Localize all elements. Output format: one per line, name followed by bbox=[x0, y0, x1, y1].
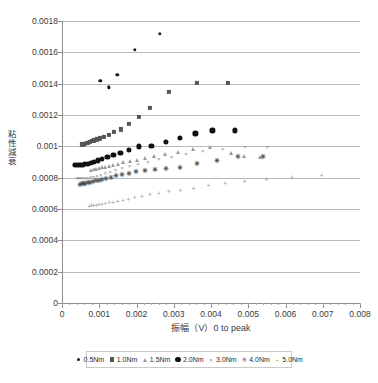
data-point-4-0Nm: ✳ bbox=[177, 164, 183, 171]
data-point-3-0Nm: × bbox=[146, 159, 150, 165]
data-point-4-0Nm: ✳ bbox=[142, 168, 148, 175]
data-point-3-0Nm: × bbox=[128, 163, 132, 169]
data-point-1-0Nm bbox=[167, 90, 171, 94]
data-point-1-0Nm bbox=[148, 106, 152, 110]
data-point-2-0Nm bbox=[149, 143, 154, 148]
data-point-0-5Nm bbox=[107, 85, 110, 88]
legend-marker-icon bbox=[108, 356, 115, 363]
legend-item-5-0Nm[interactable]: +5.0Nm bbox=[274, 356, 303, 363]
data-point-1-5Nm bbox=[163, 152, 167, 156]
data-point-5-0Nm: + bbox=[140, 192, 144, 199]
data-point-2-0Nm bbox=[164, 139, 169, 144]
legend-label: 3.0Nm bbox=[216, 356, 237, 363]
data-point-2-0Nm bbox=[233, 128, 238, 133]
x-axis-tick-label: 0.003 bbox=[163, 309, 184, 319]
x-axis-tick-label: 0.006 bbox=[275, 309, 296, 319]
data-point-4-0Nm: ✳ bbox=[214, 157, 220, 164]
data-point-1-5Nm bbox=[229, 151, 233, 155]
data-point-1-5Nm bbox=[191, 147, 195, 151]
data-point-3-0Nm: × bbox=[170, 154, 174, 160]
data-point-1-0Nm bbox=[195, 81, 199, 85]
y-axis-tick-label: 0.0012 bbox=[32, 110, 58, 120]
gridline-horizontal bbox=[62, 21, 360, 22]
x-axis-tick-mark bbox=[174, 305, 175, 308]
legend-marker-icon bbox=[141, 356, 148, 363]
y-axis-tick-label: 0.0006 bbox=[32, 204, 58, 214]
legend-label: 0.5Nm bbox=[84, 356, 105, 363]
data-point-3-0Nm: × bbox=[157, 156, 161, 162]
data-point-2-0Nm bbox=[137, 144, 142, 149]
y-axis-title: 粘性減衰 bbox=[2, 130, 16, 166]
data-point-4-0Nm: ✳ bbox=[126, 170, 132, 177]
data-point-3-0Nm: × bbox=[243, 144, 247, 150]
x-axis-tick-mark bbox=[99, 305, 100, 308]
data-point-4-0Nm: ✳ bbox=[152, 167, 158, 174]
legend-item-1-0Nm[interactable]: 1.0Nm bbox=[108, 356, 137, 363]
gridline-horizontal bbox=[62, 115, 360, 116]
data-point-5-0Nm: + bbox=[121, 196, 125, 203]
data-point-5-0Nm: + bbox=[264, 176, 268, 183]
data-point-3-0Nm: × bbox=[201, 148, 205, 154]
x-axis-tick-mark bbox=[62, 305, 63, 308]
gridline-horizontal bbox=[62, 84, 360, 85]
x-axis-tick-label: 0.001 bbox=[89, 309, 110, 319]
legend-marker-icon: ✳ bbox=[241, 356, 248, 363]
legend-label: 5.0Nm bbox=[282, 356, 303, 363]
x-axis-tick-label: 0.005 bbox=[238, 309, 259, 319]
legend-label: 1.0Nm bbox=[117, 356, 138, 363]
gridline-horizontal bbox=[62, 240, 360, 241]
data-point-4-0Nm: ✳ bbox=[163, 165, 169, 172]
legend-item-1-5Nm[interactable]: 1.5Nm bbox=[141, 356, 170, 363]
data-point-5-0Nm: + bbox=[191, 184, 195, 191]
y-axis-tick-label: 0.0016 bbox=[32, 47, 58, 57]
y-axis-tick-label: 0.0014 bbox=[32, 79, 58, 89]
x-axis-tick-mark bbox=[137, 305, 138, 308]
x-axis-tick-labels: 00.0010.0020.0030.0040.0050.0060.0070.00… bbox=[62, 305, 360, 319]
viscous-damping-scatter-chart: 00.00020.00040.00060.00080.0010.00120.00… bbox=[0, 0, 378, 383]
data-point-3-0Nm: × bbox=[265, 144, 269, 150]
data-point-2-0Nm bbox=[118, 150, 123, 155]
x-axis-tick-label: 0 bbox=[60, 309, 65, 319]
data-point-1-0Nm bbox=[102, 135, 106, 139]
y-axis-tick-label: 0.0008 bbox=[32, 173, 58, 183]
gridline-horizontal bbox=[62, 209, 360, 210]
legend-marker-icon bbox=[75, 356, 82, 363]
x-axis-title: 振幅（V）0 to peak bbox=[62, 321, 360, 334]
data-point-1-5Nm bbox=[176, 150, 180, 154]
data-point-2-0Nm bbox=[105, 154, 110, 159]
legend-item-3-0Nm[interactable]: ×3.0Nm bbox=[208, 356, 237, 363]
data-point-0-5Nm bbox=[133, 48, 136, 51]
data-point-2-0Nm bbox=[193, 131, 198, 136]
gridline-horizontal bbox=[62, 272, 360, 273]
data-point-4-0Nm: ✳ bbox=[119, 172, 125, 179]
data-point-1-0Nm bbox=[112, 130, 116, 134]
legend-label: 1.5Nm bbox=[150, 356, 171, 363]
legend-item-4-0Nm[interactable]: ✳4.0Nm bbox=[241, 356, 270, 363]
data-point-1-0Nm bbox=[119, 127, 123, 131]
data-point-3-0Nm: × bbox=[184, 151, 188, 157]
data-point-3-0Nm: × bbox=[136, 161, 140, 167]
data-point-5-0Nm: + bbox=[206, 182, 210, 189]
x-axis-tick-mark bbox=[248, 305, 249, 308]
data-point-1-0Nm bbox=[137, 115, 141, 119]
data-point-2-0Nm bbox=[111, 153, 116, 158]
data-point-0-5Nm bbox=[158, 32, 161, 35]
data-point-1-0Nm bbox=[106, 133, 110, 137]
data-point-0-5Nm bbox=[115, 73, 118, 76]
legend-item-2-0Nm[interactable]: 2.0Nm bbox=[174, 356, 203, 363]
data-point-5-0Nm: + bbox=[115, 197, 119, 204]
data-point-1-5Nm bbox=[121, 160, 125, 164]
plot-area: ×××××××××××××××××××××××××✳✳✳✳✳✳✳✳✳✳✳✳✳✳✳… bbox=[62, 21, 360, 303]
gridline-horizontal bbox=[62, 52, 360, 53]
data-point-4-0Nm: ✳ bbox=[235, 154, 241, 161]
data-point-4-0Nm: ✳ bbox=[260, 154, 266, 161]
data-point-5-0Nm: + bbox=[167, 188, 171, 195]
data-point-2-0Nm bbox=[210, 128, 215, 133]
data-point-5-0Nm: + bbox=[242, 177, 246, 184]
y-axis-tick-label: 0.0002 bbox=[32, 267, 58, 277]
legend-marker-icon bbox=[174, 356, 181, 363]
data-point-1-0Nm bbox=[127, 122, 131, 126]
x-axis-tick-label: 0.007 bbox=[312, 309, 333, 319]
y-axis-line bbox=[62, 21, 63, 303]
legend-item-0-5Nm[interactable]: 0.5Nm bbox=[75, 356, 104, 363]
